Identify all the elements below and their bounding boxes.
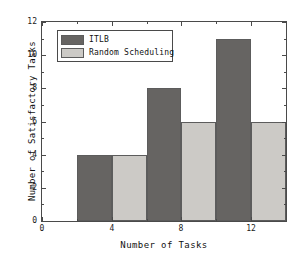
x-tick-label: 0 [40, 224, 45, 233]
y-tick-minor-right [284, 72, 287, 73]
bar-random-scheduling-12 [251, 122, 286, 222]
chart-legend: ITLB Random Scheduling [57, 30, 173, 62]
y-tick-major-right [282, 188, 287, 189]
y-tick-major-right [282, 122, 287, 123]
y-tick-major-right [282, 55, 287, 56]
x-tick-major-top [42, 21, 43, 26]
bar-random-scheduling-4 [112, 155, 147, 221]
x-tick-major-top [251, 21, 252, 26]
y-tick-major [41, 188, 46, 189]
x-tick-major-top [112, 21, 113, 26]
y-tick-major-right [282, 88, 287, 89]
y-tick-major-right [282, 221, 287, 222]
bar-itlb-4 [77, 155, 112, 221]
x-axis-title: Number of Tasks [41, 240, 287, 250]
y-tick-minor-right [284, 171, 287, 172]
y-tick-minor-right [284, 105, 287, 106]
y-tick-minor [41, 105, 44, 106]
y-tick-minor [41, 204, 44, 205]
x-tick-label: 12 [246, 224, 256, 233]
x-tick-major [251, 217, 252, 222]
legend-label-itlb: ITLB [89, 35, 109, 44]
bar-itlb-12 [216, 39, 251, 221]
bar-chart: 024681012 04812 Number of Tasks Number o… [0, 0, 304, 263]
y-tick-minor [41, 72, 44, 73]
x-tick-label: 4 [110, 224, 115, 233]
x-tick-major [181, 217, 182, 222]
x-tick-major [42, 217, 43, 222]
legend-swatch-random-scheduling [61, 48, 84, 58]
x-tick-minor [77, 219, 78, 222]
x-tick-major-top [181, 21, 182, 26]
x-tick-major [112, 217, 113, 222]
legend-entry-random-scheduling: Random Scheduling [58, 46, 172, 59]
y-tick-minor [41, 138, 44, 139]
y-tick-major [41, 155, 46, 156]
y-tick-minor-right [284, 204, 287, 205]
x-tick-minor-top [77, 21, 78, 24]
bar-random-scheduling-8 [181, 122, 216, 222]
y-tick-major [41, 55, 46, 56]
bar-itlb-8 [147, 88, 182, 221]
x-tick-minor-top [147, 21, 148, 24]
y-tick-major [41, 122, 46, 123]
legend-label-random-scheduling: Random Scheduling [89, 48, 174, 57]
y-tick-major [41, 88, 46, 89]
y-tick-major-right [282, 155, 287, 156]
x-tick-minor [216, 219, 217, 222]
legend-entry-itlb: ITLB [58, 33, 172, 46]
x-tick-minor-top [216, 21, 217, 24]
legend-swatch-itlb [61, 35, 84, 45]
y-tick-minor-right [284, 39, 287, 40]
x-tick-label: 8 [179, 224, 184, 233]
y-tick-minor [41, 171, 44, 172]
x-tick-minor [147, 219, 148, 222]
y-tick-minor-right [284, 138, 287, 139]
y-tick-minor [41, 39, 44, 40]
y-axis-title: Number of Satisfactory Tasks [27, 20, 37, 222]
y-tick-major-right [282, 22, 287, 23]
